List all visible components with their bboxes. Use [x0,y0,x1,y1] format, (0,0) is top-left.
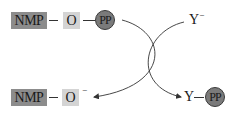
reaction-arrows [0,0,245,113]
arrow-pp-to-o-minus [94,20,155,97]
reaction-diagram: NMP O PP Y− NMP O − Y PP [0,0,245,113]
arrow-y-to-y-pp [148,22,184,97]
